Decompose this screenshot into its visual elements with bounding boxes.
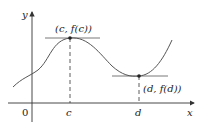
function-graph: y x 0 c d (c, f(c)) (d, f(d)) xyxy=(0,0,202,129)
min-point xyxy=(137,74,141,78)
y-axis-label: y xyxy=(21,9,28,20)
origin-label: 0 xyxy=(22,107,28,118)
function-curve xyxy=(13,38,172,87)
max-point xyxy=(68,36,72,40)
x-axis-label: x xyxy=(187,107,193,118)
max-point-label: (c, f(c)) xyxy=(55,23,92,34)
tick-label-c: c xyxy=(66,107,72,118)
min-point-label: (d, f(d)) xyxy=(143,83,182,94)
tick-label-d: d xyxy=(135,107,141,118)
